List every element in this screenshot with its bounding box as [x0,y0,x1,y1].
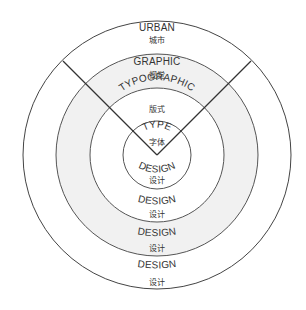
label-typographic-zh: 版式 [149,104,165,114]
label-urban-design-zh: 设计 [149,277,165,287]
label-graphic-design-en: DESIGN [137,225,177,238]
label-type-zh: 字体 [149,137,165,147]
label-urban-en: URBAN [139,22,175,33]
label-typographic-design-zh: 设计 [149,209,165,219]
nested-circles-diagram: URBAN 城市 GRAPHIC 视觉 TYPOGRAPHIC 版式 TYPE … [0,0,306,310]
label-graphic-en: GRAPHIC [134,56,181,67]
label-urban-design-en: DESIGN [137,258,177,270]
label-graphic-design-zh: 设计 [149,243,165,253]
label-type-design-zh: 设计 [149,175,165,185]
label-urban-zh: 城市 [149,35,165,45]
